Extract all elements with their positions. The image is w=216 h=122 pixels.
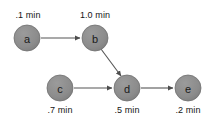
- node-e[interactable]: e: [175, 75, 201, 101]
- time-label-d: .5 min: [114, 105, 139, 115]
- node-b[interactable]: b: [82, 25, 108, 51]
- time-label-group: .1 min 1.0 min .7 min .5 min .2 min: [15, 10, 200, 115]
- node-c[interactable]: c: [47, 75, 73, 101]
- time-label-a: .1 min: [15, 10, 40, 20]
- node-label-b: b: [92, 33, 98, 45]
- node-label-e: e: [185, 83, 191, 95]
- diagram-canvas: a b c d e .1 min 1.0 min .7 min .5 min .…: [0, 0, 216, 122]
- task-dependency-graph: a b c d e .1 min 1.0 min .7 min .5 min .…: [0, 0, 216, 122]
- time-label-b: 1.0 min: [80, 10, 110, 20]
- node-label-a: a: [24, 33, 31, 45]
- time-label-c: .7 min: [47, 105, 72, 115]
- time-label-e: .2 min: [175, 105, 200, 115]
- node-label-d: d: [124, 83, 130, 95]
- node-a[interactable]: a: [14, 25, 40, 51]
- edge-b-to-d: [101, 49, 121, 76]
- node-d[interactable]: d: [114, 75, 140, 101]
- node-label-c: c: [57, 83, 63, 95]
